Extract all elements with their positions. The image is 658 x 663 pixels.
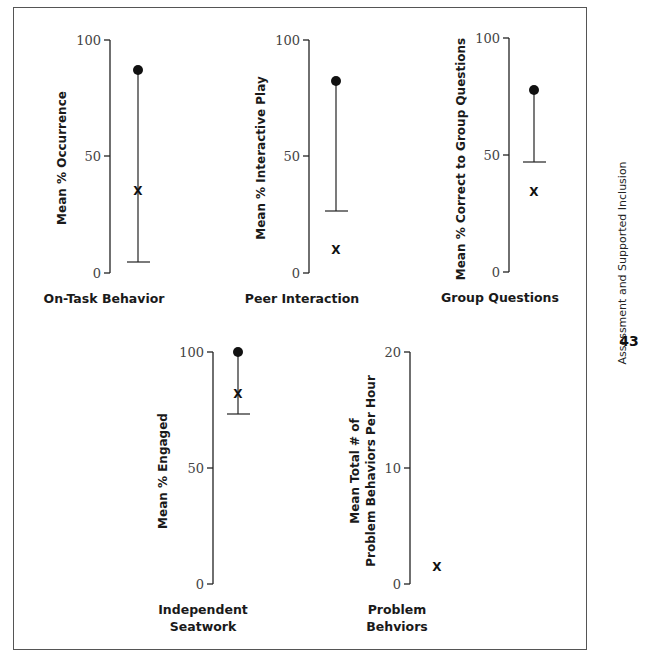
- y-tick-0: 0: [393, 577, 401, 592]
- y-tick-10: 10: [384, 461, 401, 476]
- y-tick-50: 50: [483, 148, 500, 163]
- dot-marker: [233, 347, 243, 357]
- chart-group-questions: 100 50 0 Mean % Correct to Group Questio…: [441, 31, 559, 305]
- y-tick-100: 100: [275, 33, 300, 48]
- chart-problem-behaviors: 20 10 0 Mean Total # of Problem Behavior…: [348, 345, 442, 634]
- dot-marker: [133, 65, 143, 75]
- dot-marker: [331, 76, 341, 86]
- y-tick-50: 50: [283, 149, 300, 164]
- dot-marker: [529, 85, 539, 95]
- x-axis-label-line2: Seatwork: [170, 619, 237, 634]
- y-axis-label: Mean % Interactive Play: [254, 76, 268, 240]
- y-axis-label: Mean % Engaged: [156, 413, 170, 529]
- x-marker: X: [233, 387, 243, 401]
- y-tick-50: 50: [84, 149, 101, 164]
- y-axis-label-line2: Problem Behaviors Per Hour: [364, 375, 378, 567]
- x-axis-label: Group Questions: [441, 290, 559, 305]
- y-tick-100: 100: [76, 33, 101, 48]
- x-marker: X: [432, 560, 442, 574]
- y-tick-100: 100: [475, 31, 500, 46]
- y-axis-label: Mean % Occurrence: [55, 91, 69, 225]
- x-axis-label: Peer Interaction: [245, 291, 359, 306]
- y-tick-100: 100: [179, 345, 204, 360]
- figure-canvas: 100 50 0 Mean % Occurrence X On-Task Beh…: [0, 0, 658, 663]
- y-axis-label-line1: Mean Total # of: [348, 417, 362, 523]
- y-axis-label: Mean % Correct to Group Questions: [454, 38, 468, 280]
- y-tick-0: 0: [492, 265, 500, 280]
- x-axis-label-line2: Behviors: [366, 619, 428, 634]
- x-marker: X: [529, 185, 539, 199]
- y-tick-0: 0: [93, 266, 101, 281]
- x-axis-label-line1: Independent: [158, 602, 248, 617]
- x-marker: X: [331, 243, 341, 257]
- x-marker: X: [133, 184, 143, 198]
- x-axis-label: On-Task Behavior: [44, 291, 166, 306]
- page-number: 43: [619, 333, 638, 349]
- x-axis-label-line1: Problem: [368, 602, 427, 617]
- y-tick-0: 0: [196, 577, 204, 592]
- chart-on-task-behavior: 100 50 0 Mean % Occurrence X On-Task Beh…: [44, 33, 166, 306]
- chart-peer-interaction: 100 50 0 Mean % Interactive Play X Peer …: [245, 33, 359, 306]
- y-tick-20: 20: [384, 345, 401, 360]
- y-tick-0: 0: [292, 266, 300, 281]
- y-tick-50: 50: [187, 461, 204, 476]
- chart-independent-seatwork: 100 50 0 Mean % Engaged X Independent Se…: [156, 345, 250, 634]
